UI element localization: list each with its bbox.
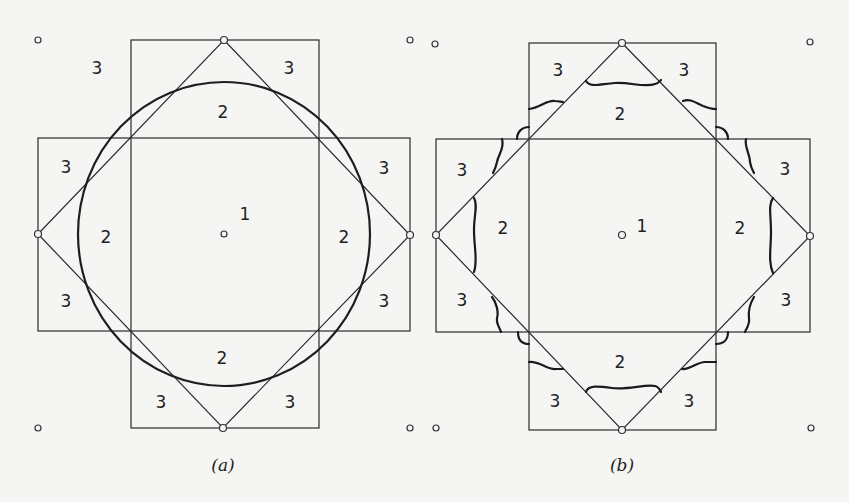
corner-point-icon xyxy=(35,425,41,431)
region-label: 1 xyxy=(240,204,251,224)
region-label: 2 xyxy=(339,227,350,247)
region-label: 3 xyxy=(61,157,72,177)
region-label: 2 xyxy=(101,227,112,247)
region-label: 1 xyxy=(637,216,648,236)
region-label: 3 xyxy=(553,60,564,80)
vertex-point-icon xyxy=(220,425,227,432)
region-label: 3 xyxy=(156,392,167,412)
region-label: 2 xyxy=(615,352,626,372)
region-label: 3 xyxy=(92,58,103,78)
panel-b: 3 3 2 3 3 2 1 2 3 3 2 3 3 (b) xyxy=(432,39,814,475)
region-label: 3 xyxy=(379,291,390,311)
region-label: 2 xyxy=(218,102,229,122)
vertex-point-icon xyxy=(433,232,440,239)
region-label: 3 xyxy=(61,291,72,311)
vertex-point-icon xyxy=(221,37,228,44)
vertex-point-icon xyxy=(807,233,814,240)
vertex-point-icon xyxy=(407,232,414,239)
center-point-icon xyxy=(619,232,626,239)
corner-point-icon xyxy=(433,425,439,431)
region-label: 3 xyxy=(457,290,468,310)
region-label: 2 xyxy=(735,218,746,238)
corner-point-icon xyxy=(432,41,438,47)
region-label: 3 xyxy=(781,290,792,310)
region-label: 2 xyxy=(498,218,509,238)
region-label: 3 xyxy=(684,391,695,411)
caption-b: (b) xyxy=(610,455,634,475)
center-point-icon xyxy=(221,231,227,237)
region-label: 2 xyxy=(615,104,626,124)
corner-point-icon xyxy=(808,425,814,431)
corner-point-icon xyxy=(35,37,41,43)
corner-point-icon xyxy=(407,425,413,431)
vertex-point-icon xyxy=(35,231,42,238)
panel-a: 3 3 2 3 3 2 1 2 3 3 2 3 3 (a) xyxy=(35,37,414,475)
region-label: 3 xyxy=(285,392,296,412)
corner-point-icon xyxy=(807,39,813,45)
region-label: 3 xyxy=(457,160,468,180)
region-label: 3 xyxy=(550,391,561,411)
region-label: 2 xyxy=(217,348,228,368)
vertex-point-icon xyxy=(619,40,626,47)
caption-a: (a) xyxy=(211,455,234,475)
figure-canvas: 3 3 2 3 3 2 1 2 3 3 2 3 3 (a) xyxy=(0,0,849,502)
corner-point-icon xyxy=(407,37,413,43)
region-label: 3 xyxy=(780,159,791,179)
region-label: 3 xyxy=(679,60,690,80)
region-label: 3 xyxy=(284,58,295,78)
region-label: 3 xyxy=(379,158,390,178)
vertex-point-icon xyxy=(619,427,626,434)
